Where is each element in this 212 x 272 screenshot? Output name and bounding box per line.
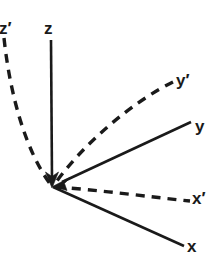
x-axis-label: x xyxy=(187,238,196,255)
y-prime-axis-label: y′ xyxy=(176,72,190,89)
z-prime-axis-line xyxy=(4,38,51,185)
x-prime-axis-label: x′ xyxy=(192,190,206,207)
z-axis-line xyxy=(51,40,52,180)
x-prime-axis-line xyxy=(56,187,190,201)
z-prime-axis-label: z′ xyxy=(0,20,12,37)
x-axis-line xyxy=(53,187,184,246)
coordinate-axes-figure: z′ z y′ y x′ x xyxy=(0,0,212,272)
z-axis-label: z xyxy=(44,20,53,37)
y-prime-axis-line xyxy=(54,82,173,185)
y-axis-label: y xyxy=(195,118,204,135)
axes-drawing xyxy=(0,0,212,272)
